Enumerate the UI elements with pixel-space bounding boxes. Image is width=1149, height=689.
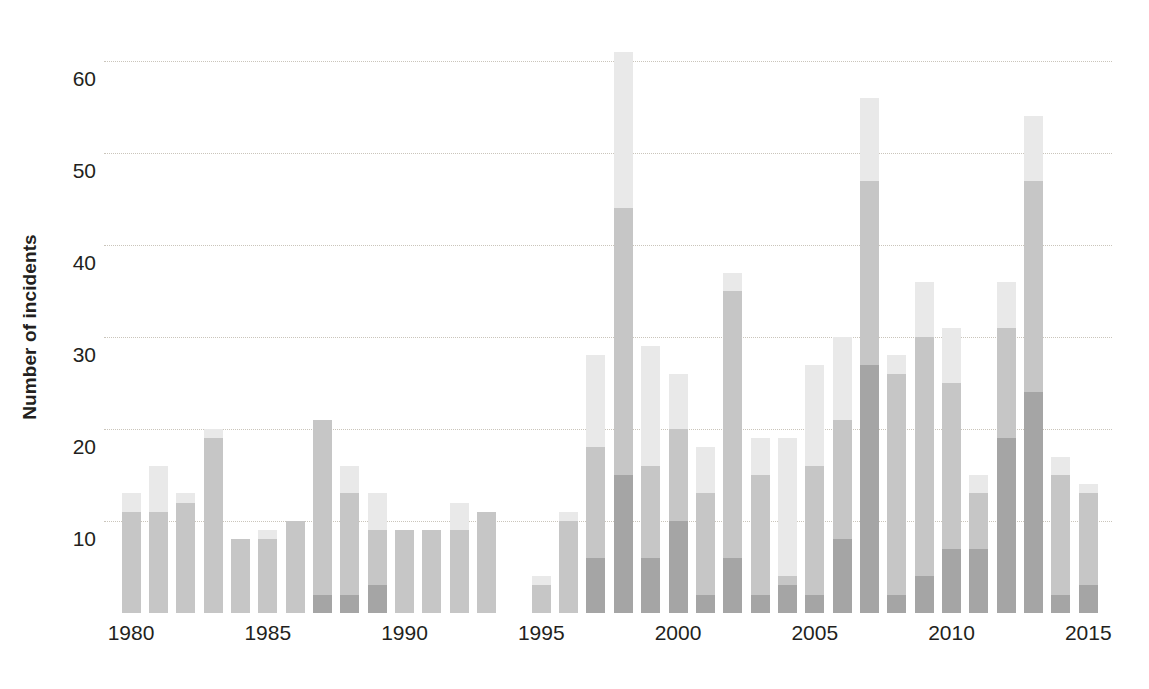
bar-segment-top-2009 xyxy=(915,282,934,337)
bar-1989[interactable] xyxy=(368,493,387,613)
bar-1993[interactable] xyxy=(477,512,496,613)
bar-2014[interactable] xyxy=(1051,457,1070,613)
x-tick-label-1990: 1990 xyxy=(365,622,445,643)
bar-segment-mid-2009 xyxy=(915,337,934,576)
bar-1981[interactable] xyxy=(149,466,168,613)
bar-segment-top-1999 xyxy=(641,346,660,466)
bar-segment-bottom-2014 xyxy=(1051,595,1070,613)
bar-segment-mid-1990 xyxy=(395,530,414,613)
bar-2002[interactable] xyxy=(723,273,742,613)
bar-segment-bottom-2000 xyxy=(669,521,688,613)
bar-segment-mid-2011 xyxy=(969,493,988,548)
bar-1999[interactable] xyxy=(641,346,660,613)
bar-segment-top-1983 xyxy=(204,429,223,438)
bar-segment-mid-1989 xyxy=(368,530,387,585)
bar-2004[interactable] xyxy=(778,438,797,613)
bar-segment-mid-1987 xyxy=(313,420,332,595)
bar-segment-mid-1998 xyxy=(614,208,633,475)
x-tick-label-2015: 2015 xyxy=(1048,622,1128,643)
bar-segment-mid-2003 xyxy=(751,475,770,595)
bar-segment-mid-2015 xyxy=(1079,493,1098,585)
bar-segment-mid-2000 xyxy=(669,429,688,521)
bar-2003[interactable] xyxy=(751,438,770,613)
bar-segment-bottom-1998 xyxy=(614,475,633,613)
bar-segment-mid-2002 xyxy=(723,291,742,558)
bar-1984[interactable] xyxy=(231,539,250,613)
bar-1991[interactable] xyxy=(422,530,441,613)
x-tick-label-1985: 1985 xyxy=(228,622,308,643)
bar-segment-mid-1997 xyxy=(586,447,605,557)
bar-segment-top-1989 xyxy=(368,493,387,530)
bar-1986[interactable] xyxy=(286,521,305,613)
bar-1995[interactable] xyxy=(532,576,551,613)
y-tick-label-20: 20 xyxy=(56,436,96,457)
bar-segment-mid-2013 xyxy=(1024,181,1043,393)
bar-segment-top-1997 xyxy=(586,355,605,447)
bar-1997[interactable] xyxy=(586,355,605,613)
bar-segment-mid-1995 xyxy=(532,585,551,613)
bar-segment-bottom-2015 xyxy=(1079,585,1098,613)
bar-1996[interactable] xyxy=(559,512,578,613)
bar-1985[interactable] xyxy=(258,530,277,613)
bar-segment-bottom-2010 xyxy=(942,549,961,613)
bar-2012[interactable] xyxy=(997,282,1016,613)
bar-segment-mid-1991 xyxy=(422,530,441,613)
bar-segment-mid-1981 xyxy=(149,512,168,613)
bar-1998[interactable] xyxy=(614,52,633,613)
bar-segment-bottom-1997 xyxy=(586,558,605,613)
bar-segment-mid-1992 xyxy=(450,530,469,613)
bar-segment-top-2012 xyxy=(997,282,1016,328)
bar-1987[interactable] xyxy=(313,420,332,613)
bar-segment-bottom-2011 xyxy=(969,549,988,613)
gridline-50 xyxy=(104,153,1112,154)
bar-2006[interactable] xyxy=(833,337,852,613)
bar-segment-top-1981 xyxy=(149,466,168,512)
bar-2001[interactable] xyxy=(696,447,715,613)
bar-segment-top-1995 xyxy=(532,576,551,585)
bar-1982[interactable] xyxy=(176,493,195,613)
bar-segment-mid-2012 xyxy=(997,328,1016,438)
bar-2008[interactable] xyxy=(887,355,906,613)
bar-segment-top-1998 xyxy=(614,52,633,208)
bar-segment-top-2003 xyxy=(751,438,770,475)
bar-2015[interactable] xyxy=(1079,484,1098,613)
bar-segment-top-1996 xyxy=(559,512,578,521)
bar-segment-top-2015 xyxy=(1079,484,1098,493)
gridline-40 xyxy=(104,245,1112,246)
bar-segment-mid-2004 xyxy=(778,576,797,585)
bar-2010[interactable] xyxy=(942,328,961,613)
bar-1992[interactable] xyxy=(450,503,469,613)
bar-1990[interactable] xyxy=(395,530,414,613)
bar-segment-mid-2006 xyxy=(833,420,852,540)
bar-segment-top-2006 xyxy=(833,337,852,420)
bar-segment-mid-1982 xyxy=(176,503,195,613)
y-tick-label-40: 40 xyxy=(56,252,96,273)
bar-segment-top-1982 xyxy=(176,493,195,502)
bar-1988[interactable] xyxy=(340,466,359,613)
bar-segment-top-1985 xyxy=(258,530,277,539)
bar-segment-bottom-2005 xyxy=(805,595,824,613)
bar-segment-top-2010 xyxy=(942,328,961,383)
bar-2005[interactable] xyxy=(805,365,824,613)
bar-segment-top-2013 xyxy=(1024,116,1043,180)
x-tick-label-2000: 2000 xyxy=(638,622,718,643)
bar-segment-top-2007 xyxy=(860,98,879,181)
incidents-bar-chart: Number of incidents 102030405060 1980198… xyxy=(0,0,1149,689)
bar-2011[interactable] xyxy=(969,475,988,613)
bar-1983[interactable] xyxy=(204,429,223,613)
bar-segment-bottom-2002 xyxy=(723,558,742,613)
bar-2009[interactable] xyxy=(915,282,934,613)
bar-segment-top-2004 xyxy=(778,438,797,576)
bar-2000[interactable] xyxy=(669,374,688,613)
bar-1980[interactable] xyxy=(122,493,141,613)
bar-segment-bottom-2003 xyxy=(751,595,770,613)
bar-segment-bottom-2012 xyxy=(997,438,1016,613)
bar-segment-bottom-2009 xyxy=(915,576,934,613)
bar-segment-mid-2005 xyxy=(805,466,824,595)
bar-2007[interactable] xyxy=(860,98,879,613)
bar-segment-top-2011 xyxy=(969,475,988,493)
bar-segment-mid-2008 xyxy=(887,374,906,595)
bar-segment-bottom-1989 xyxy=(368,585,387,613)
bar-segment-mid-1980 xyxy=(122,512,141,613)
bar-2013[interactable] xyxy=(1024,116,1043,613)
